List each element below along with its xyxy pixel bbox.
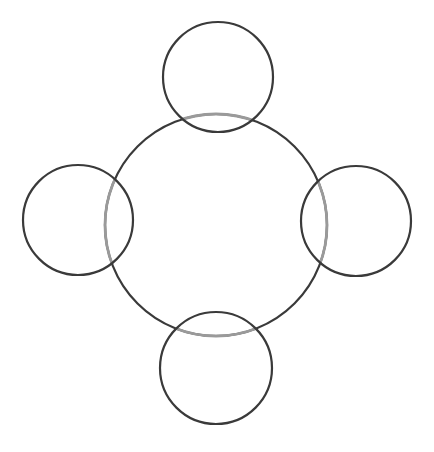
overlap-arc-left [105, 114, 327, 336]
overlap-arc-top [105, 114, 327, 336]
satellite-circle-top [163, 22, 273, 132]
overlap-arcs [105, 114, 327, 336]
overlap-arc-right [105, 114, 327, 336]
overlap-arc-bottom [105, 114, 327, 336]
satellite-circle-right [301, 166, 411, 276]
central-circle [105, 114, 327, 336]
circle-diagram [0, 0, 434, 452]
satellite-circle-bottom [160, 312, 272, 424]
satellite-circle-left [23, 165, 133, 275]
